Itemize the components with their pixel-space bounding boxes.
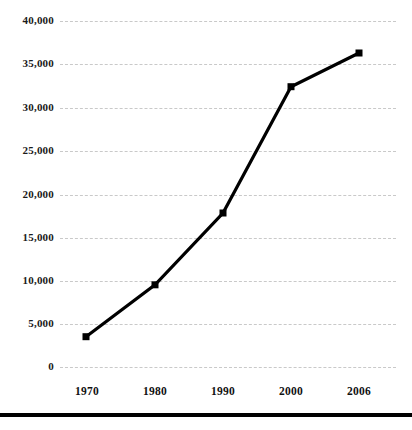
- xtick-label-1990: 1990: [193, 386, 253, 398]
- gridline-20000: [60, 195, 396, 196]
- xtick-label-2006: 2006: [329, 386, 389, 398]
- gridline-40000: [60, 21, 396, 22]
- ytick-label-0: 0: [0, 361, 54, 372]
- ytick-label-40000: 40,000: [0, 15, 54, 26]
- data-point-marker-1990: [220, 210, 227, 217]
- gridline-30000: [60, 108, 396, 109]
- xtick-label-2000: 2000: [261, 386, 321, 398]
- gridline-25000: [60, 151, 396, 152]
- footer-rule: [0, 413, 412, 417]
- xtick-label-1980: 1980: [125, 386, 185, 398]
- line-chart: 40,000 35,000 30,000 25,000 20,000 15,00…: [0, 0, 412, 430]
- data-point-marker-1970: [83, 333, 90, 340]
- plot-area: 40,000 35,000 30,000 25,000 20,000 15,00…: [0, 0, 412, 430]
- data-point-marker-2006: [356, 50, 363, 57]
- gridline-15000: [60, 238, 396, 239]
- ytick-label-20000: 20,000: [0, 189, 54, 200]
- ytick-label-5000: 5,000: [0, 318, 54, 329]
- gridline-10000: [60, 281, 396, 282]
- ytick-label-35000: 35,000: [0, 58, 54, 69]
- ytick-label-30000: 30,000: [0, 102, 54, 113]
- gridline-0: [60, 367, 396, 368]
- ytick-label-25000: 25,000: [0, 145, 54, 156]
- gridline-5000: [60, 324, 396, 325]
- data-point-marker-1980: [152, 281, 159, 288]
- xtick-label-1970: 1970: [57, 386, 117, 398]
- gridline-35000: [60, 64, 396, 65]
- data-point-marker-2000: [288, 83, 295, 90]
- ytick-label-15000: 15,000: [0, 232, 54, 243]
- ytick-label-10000: 10,000: [0, 275, 54, 286]
